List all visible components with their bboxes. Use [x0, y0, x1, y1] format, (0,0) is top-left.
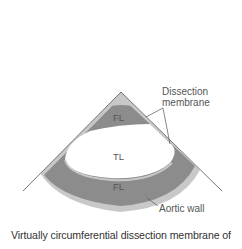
label-aortic-wall: Aortic wall [159, 203, 205, 214]
top-wall-cap [106, 92, 136, 107]
label-false-lumen-top: FL [113, 112, 124, 123]
membrane-leader-1 [146, 108, 163, 117]
label-dissection-membrane-1: Dissection [162, 86, 208, 97]
label-true-lumen: TL [113, 151, 124, 162]
label-dissection-membrane-2: membrane [162, 97, 210, 108]
echo-sector-diagram: Dissection membrane FL TL FL Aortic wall [0, 0, 242, 249]
label-false-lumen-bottom: FL [113, 181, 124, 192]
figure-caption: Virtually circumferential dissection mem… [0, 229, 242, 241]
